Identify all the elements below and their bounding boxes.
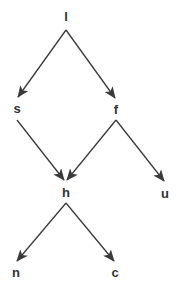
edge-h-c xyxy=(66,203,114,261)
node-s: s xyxy=(13,102,20,115)
node-n: n xyxy=(12,266,20,279)
edge-f-h xyxy=(67,120,116,180)
edge-l-s xyxy=(18,30,66,97)
node-h: h xyxy=(62,186,70,199)
node-f: f xyxy=(114,103,118,116)
node-c: c xyxy=(111,266,118,279)
node-l: l xyxy=(64,10,68,23)
edge-f-u xyxy=(116,120,164,181)
graph-edges xyxy=(0,0,180,292)
edge-s-h xyxy=(17,120,64,180)
edge-h-n xyxy=(17,203,66,261)
node-u: u xyxy=(161,187,169,200)
edge-l-f xyxy=(66,30,115,98)
